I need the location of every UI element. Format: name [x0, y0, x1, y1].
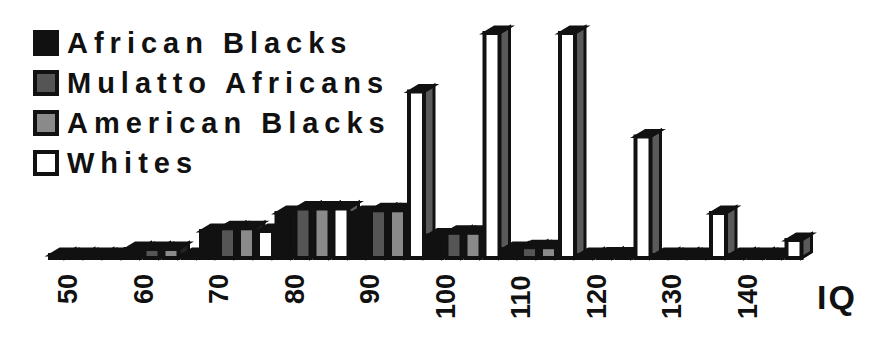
legend-swatch-american-blacks [33, 110, 59, 136]
x-tick-label: 130 [657, 274, 688, 319]
bar [485, 33, 500, 258]
bar [277, 213, 292, 258]
bar [69, 255, 84, 258]
legend-swatch-mulatto-africans [33, 70, 59, 96]
bar [88, 255, 103, 258]
x-tick-label: 110 [506, 275, 537, 319]
bar [201, 231, 216, 258]
legend-swatch-whites [33, 150, 59, 176]
bar [749, 255, 764, 258]
bar-group-50 [50, 249, 132, 258]
bar [296, 209, 311, 259]
bar-group-120 [579, 131, 661, 259]
legend: African Blacks Mulatto Africans American… [33, 23, 391, 183]
bar [145, 249, 160, 258]
bar [579, 255, 594, 258]
bar [409, 92, 424, 259]
bar [617, 254, 632, 258]
bar [711, 213, 726, 258]
bar [692, 255, 707, 258]
bar [126, 249, 141, 258]
bar-group-100 [428, 27, 510, 258]
legend-swatch-african-blacks [33, 30, 59, 56]
bar [466, 233, 481, 258]
bar [654, 255, 669, 258]
legend-label: Mulatto Africans [67, 67, 389, 100]
bar [636, 137, 651, 259]
legend-item-african-blacks: African Blacks [33, 23, 391, 63]
legend-item-whites: Whites [33, 143, 391, 183]
bar [258, 231, 273, 258]
bar-group-60 [126, 243, 208, 258]
bar [183, 255, 198, 258]
bar [107, 255, 122, 258]
bar [315, 209, 330, 259]
bar [239, 228, 254, 258]
bar [768, 255, 783, 258]
legend-label: American Blacks [67, 107, 391, 140]
legend-item-mulatto-africans: Mulatto Africans [33, 63, 391, 103]
bar [598, 254, 613, 258]
bar [673, 255, 688, 258]
bar [560, 33, 575, 258]
bar [371, 210, 386, 258]
bar-group-130 [654, 207, 736, 258]
x-tick-label: 70 [204, 274, 235, 304]
legend-label: African Blacks [67, 27, 353, 60]
legend-label: Whites [67, 147, 198, 180]
x-axis-title: IQ [817, 278, 857, 317]
bar [730, 255, 745, 258]
bar-group-80 [277, 203, 359, 259]
bar [220, 228, 235, 258]
bar [390, 210, 405, 258]
x-tick-label: 60 [129, 274, 160, 304]
bar [541, 247, 556, 258]
bar-group-70 [201, 222, 283, 258]
bar [334, 209, 349, 259]
bar [428, 236, 443, 259]
bar [352, 213, 367, 258]
x-tick-label: 100 [431, 274, 462, 319]
x-tick-label: 120 [582, 274, 613, 319]
bar [50, 255, 65, 258]
x-tick-label: 140 [733, 274, 764, 319]
bar-group-140 [730, 234, 812, 258]
legend-item-american-blacks: American Blacks [33, 103, 391, 143]
bar-group-110 [503, 27, 585, 258]
x-tick-label: 80 [280, 274, 311, 304]
bar [503, 249, 518, 258]
x-tick-label: 90 [355, 274, 386, 304]
x-tick-label: 50 [53, 274, 84, 304]
bar [522, 247, 537, 258]
bar [787, 240, 802, 258]
bar [164, 249, 179, 258]
bar [447, 233, 462, 258]
